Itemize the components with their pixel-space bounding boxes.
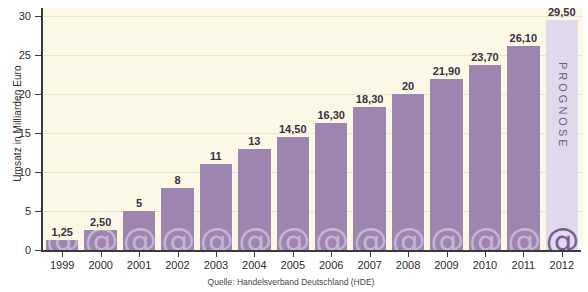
bar-slot: @16,30	[312, 8, 350, 250]
bar: @	[238, 149, 270, 250]
at-symbol-icon: @	[200, 223, 232, 250]
y-axis-label: 30	[0, 10, 31, 22]
at-symbol-icon: @	[353, 223, 385, 250]
bar: @	[430, 79, 462, 250]
y-axis-label: 5	[0, 205, 31, 217]
y-axis-tick	[35, 55, 41, 56]
bar-slot: @23,70	[466, 8, 504, 250]
x-axis-label: 2012	[539, 259, 585, 271]
at-symbol-icon: @	[84, 230, 116, 250]
x-axis-tick	[216, 252, 217, 257]
x-axis-tick	[370, 252, 371, 257]
bar-slot: @8	[158, 8, 196, 250]
bar: @	[315, 123, 347, 250]
y-axis-label: 25	[0, 49, 31, 61]
bar-value-label: 13	[229, 135, 279, 147]
x-axis-tick	[485, 252, 486, 257]
x-axis-tick	[331, 252, 332, 257]
x-axis-tick	[523, 252, 524, 257]
bar-value-label: 16,30	[306, 109, 356, 121]
x-axis-tick	[293, 252, 294, 257]
y-axis-label: 15	[0, 127, 31, 139]
bar-slot: @1,25	[43, 8, 81, 250]
bar-slot: @11	[197, 8, 235, 250]
forecast-label: PROGNOSE	[555, 46, 569, 166]
bar-slot: @21,90	[427, 8, 465, 250]
bar-slot: @18,30	[350, 8, 388, 250]
bar-chart: Umsatz in Milliarden Euro 051015202530 @…	[0, 0, 588, 292]
y-axis-tick	[35, 133, 41, 134]
bar: @	[200, 164, 232, 250]
at-symbol-icon: @	[277, 223, 309, 250]
bar-slot: @26,10	[504, 8, 542, 250]
at-symbol-icon: @	[546, 223, 578, 250]
source-note: Quelle: Handelsverband Deutschland (HDE)	[0, 277, 582, 287]
at-symbol-icon: @	[46, 240, 78, 250]
at-symbol-icon: @	[161, 223, 193, 250]
x-axis-tick	[62, 252, 63, 257]
bar-value-label: 18,30	[344, 93, 394, 105]
bar-value-label: 11	[191, 150, 241, 162]
bar-value-label: 26,10	[498, 32, 548, 44]
bar: @	[161, 188, 193, 250]
y-axis-tick	[35, 172, 41, 173]
x-axis-tick	[254, 252, 255, 257]
bar-value-label: 8	[152, 174, 202, 186]
bar: @	[469, 65, 501, 250]
x-axis-tick	[562, 252, 563, 257]
bar: @	[392, 94, 424, 250]
bar-slot: @14,50	[274, 8, 312, 250]
bars-layer: @1,25@2,50@5@8@11@13@14,50@16,30@18,30@2…	[43, 8, 581, 250]
y-axis-label: 0	[0, 244, 31, 256]
y-axis-tick	[35, 16, 41, 17]
x-axis-tick	[447, 252, 448, 257]
y-axis-label: 20	[0, 88, 31, 100]
y-axis-tick	[35, 94, 41, 95]
at-symbol-icon: @	[507, 223, 539, 250]
bar: @	[46, 240, 78, 250]
bar: @	[353, 107, 385, 250]
bar: @	[123, 211, 155, 250]
bar-value-label: 23,70	[460, 51, 510, 63]
bar-value-label: 2,50	[75, 216, 125, 228]
x-axis-tick	[178, 252, 179, 257]
bar: @	[507, 46, 539, 250]
bar-value-label: 29,50	[537, 6, 587, 18]
at-symbol-icon: @	[238, 223, 270, 250]
bar-slot: @5	[120, 8, 158, 250]
bar-value-label: 14,50	[268, 123, 318, 135]
bar: @	[277, 137, 309, 250]
bar-forecast: @PROGNOSE	[546, 20, 578, 250]
bar-slot: @2,50	[81, 8, 119, 250]
bar-slot: @PROGNOSE29,50	[543, 8, 581, 250]
at-symbol-icon: @	[430, 223, 462, 250]
bar: @	[84, 230, 116, 250]
at-symbol-icon: @	[392, 223, 424, 250]
bar-slot: @20	[389, 8, 427, 250]
x-axis-tick	[139, 252, 140, 257]
at-symbol-icon: @	[315, 223, 347, 250]
at-symbol-icon: @	[469, 223, 501, 250]
bar-value-label: 5	[114, 197, 164, 209]
x-axis-tick	[408, 252, 409, 257]
at-symbol-icon: @	[123, 223, 155, 250]
bar-value-label: 21,90	[421, 65, 471, 77]
y-axis-label: 10	[0, 166, 31, 178]
x-axis-line	[41, 250, 581, 252]
bar-value-label: 20	[383, 80, 433, 92]
y-axis-tick	[35, 211, 41, 212]
x-axis-tick	[101, 252, 102, 257]
